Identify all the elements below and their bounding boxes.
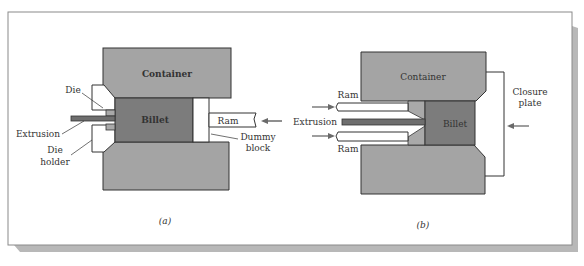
billet-label-b: Billet: [443, 119, 468, 129]
dummy-label-a2: block: [246, 143, 271, 153]
extrusion-label-b: Extrusion: [293, 117, 337, 127]
caption-a: (a): [159, 216, 172, 226]
closure-label-b1: Closure: [512, 87, 547, 97]
closure-label-b2: plate: [519, 98, 542, 108]
ram-bottom-label-b: Ram: [338, 144, 359, 154]
die-holder-label-a1: Die: [47, 145, 62, 155]
ram-top-label-b: Ram: [338, 90, 359, 100]
die-bottom-a: [106, 124, 115, 130]
extrusion-diagram: Container Billet Ram Die Extrusion Die h…: [0, 0, 584, 266]
extrusion-rod-b: [342, 119, 425, 125]
caption-b: (b): [417, 220, 430, 230]
ram-top-b: [336, 103, 408, 111]
die-top-a: [106, 110, 115, 116]
container-bottom-b: [361, 145, 485, 194]
container-label-a: Container: [142, 69, 192, 79]
ram-bottom-b: [336, 132, 408, 141]
container-bottom-a: [103, 142, 229, 190]
billet-label-a: Billet: [141, 115, 170, 125]
extrusion-rod-a: [71, 116, 115, 121]
dummy-label-a1: Dummy: [240, 132, 276, 142]
container-label-b: Container: [400, 72, 446, 82]
dummy-block-a: [193, 98, 209, 142]
ram-label-a: Ram: [218, 116, 239, 126]
extrusion-label-a: Extrusion: [16, 129, 60, 139]
die-holder-label-a2: holder: [40, 157, 70, 167]
die-label-a: Die: [65, 85, 80, 95]
